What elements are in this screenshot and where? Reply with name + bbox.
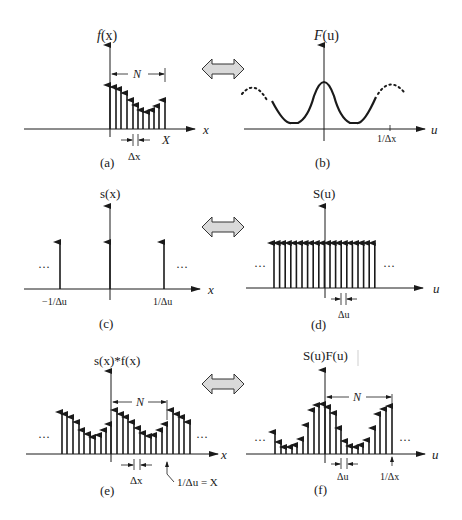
N-label: N [352, 390, 362, 404]
panel-a: f(x) x N X Δx (a) [24, 28, 209, 170]
ellipsis-right: ··· [176, 260, 188, 274]
X-label: X [161, 132, 171, 147]
x-label: x [202, 122, 209, 137]
ellipsis-left: ··· [38, 260, 50, 274]
N-label: N [132, 67, 142, 81]
delta-u-label: Δu [337, 471, 348, 482]
caption-e: (e) [100, 483, 114, 498]
transform-arrow-3 [202, 374, 244, 394]
caption-d: (d) [311, 317, 326, 332]
panel-e: s(x)*f(x) x [26, 353, 227, 498]
ylabel: S(u) [313, 186, 335, 201]
x-label: x [220, 447, 227, 462]
u-label: u [432, 447, 439, 462]
u-label: u [431, 122, 438, 137]
delta-u-label: Δu [338, 309, 349, 320]
caption-f: (f) [314, 482, 327, 497]
ellipsis-right: ··· [383, 259, 395, 273]
caption-a: (a) [100, 155, 114, 170]
tick-1-over-dx: 1/Δx [377, 133, 396, 144]
caption-c: (c) [99, 316, 113, 331]
ylabel: F(u) [313, 28, 339, 44]
ylabel: S(u)F(u) [303, 348, 348, 363]
ylabel: f(x) [97, 28, 118, 44]
transform-arrow-2 [202, 217, 244, 237]
periodic-samples [62, 410, 190, 454]
tick-1-over-du: 1/Δu [153, 296, 172, 307]
tick-1-over-dx: 1/Δx [380, 471, 399, 482]
delta-x-label: Δx [128, 150, 141, 162]
ellipsis-left: ··· [254, 433, 266, 447]
panel-d: S(u) u ··· ··· Δu [246, 186, 440, 332]
ellipsis-right: ··· [399, 433, 411, 447]
N-label: N [135, 395, 145, 409]
transform-arrow-1 [202, 59, 244, 79]
u-label: u [433, 281, 440, 296]
spectrum-samples [275, 404, 392, 454]
x-label: x [207, 282, 214, 297]
ylabel: s(x) [100, 186, 120, 201]
impulse-train [274, 243, 375, 288]
ellipsis-left: ··· [38, 430, 50, 444]
panel-b: F(u) u 1/Δx (b) [242, 28, 438, 170]
caption-b: (b) [315, 155, 330, 170]
ellipsis-left: ··· [254, 259, 266, 273]
period-label: 1/Δu = X [177, 476, 218, 488]
tick-neg-1-over-du: −1/Δu [42, 296, 67, 307]
panel-f: S(u)F(u) u ··· ··· [246, 348, 439, 497]
delta-x-label: Δx [130, 474, 143, 486]
panel-c: s(x) x ··· ··· −1/Δu 1/Δu (c) [24, 186, 214, 331]
ellipsis-right: ··· [196, 430, 208, 444]
sampling-theorem-figure: f(x) x N X Δx (a) [0, 0, 462, 520]
samples [110, 85, 165, 129]
ylabel: s(x)*f(x) [94, 353, 140, 368]
